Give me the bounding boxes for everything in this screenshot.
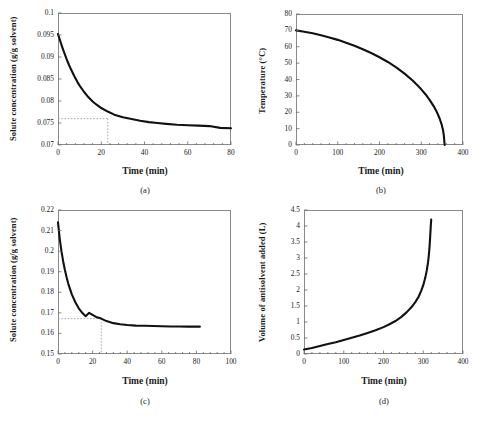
y-tick-label: 0.15 — [24, 350, 54, 357]
y-tick-label: 1 — [270, 318, 300, 325]
guide-lines-c — [58, 319, 101, 354]
y-tick-label: 2 — [270, 286, 300, 293]
x-tick-label: 60 — [174, 149, 202, 156]
y-tick-label: 0 — [262, 141, 292, 148]
y-tick-label: 0.085 — [24, 75, 54, 82]
y-tick-label: 0.075 — [24, 119, 54, 126]
y-tick-label: 2.5 — [270, 270, 300, 277]
x-tick-label: 0 — [44, 358, 72, 365]
y-tick-label: 20 — [262, 108, 292, 115]
x-tick-label: 0 — [282, 149, 310, 156]
x-axis-label-c: Time (min) — [85, 376, 205, 386]
x-tick-label: 100 — [324, 149, 352, 156]
x-tick-label: 300 — [409, 358, 437, 365]
x-tick-label: 80 — [217, 149, 245, 156]
x-axis-label-b: Time (min) — [321, 166, 441, 176]
x-tick-label: 200 — [370, 358, 398, 365]
subplot-c: Solute concentration (g/g solvent) 0.150… — [0, 200, 249, 426]
x-tick-label: 0 — [290, 358, 318, 365]
y-axis-label-d: Volume of antisolvent added (L) — [257, 212, 269, 352]
axis-ticks-c — [58, 210, 231, 354]
x-tick-label: 80 — [182, 358, 210, 365]
y-axis-label-c: Solute concentration (g/g solvent) — [8, 212, 20, 347]
x-tick-label: 60 — [148, 358, 176, 365]
y-tick-label: 0.19 — [24, 268, 54, 275]
y-tick-label: 4 — [270, 222, 300, 229]
x-tick-label: 0 — [44, 149, 72, 156]
subplot-caption-b: (b) — [351, 185, 411, 195]
subplot-a: Solute concentration (g/g solvent) 0.070… — [0, 0, 249, 200]
y-tick-label: 0.5 — [270, 334, 300, 341]
x-tick-label: 40 — [131, 149, 159, 156]
plot-canvas-a — [58, 13, 231, 145]
x-tick-label: 400 — [449, 358, 477, 365]
y-tick-label: 0.18 — [24, 288, 54, 295]
y-tick-label: 3.5 — [270, 238, 300, 245]
axis-ticks-b — [296, 14, 463, 145]
data-curve-a — [58, 34, 231, 128]
subplot-caption-c: (c) — [115, 396, 175, 406]
y-tick-label: 40 — [262, 76, 292, 83]
x-axis-label-d: Time (min) — [324, 376, 444, 386]
data-curve-c — [58, 222, 200, 326]
x-tick-label: 20 — [79, 358, 107, 365]
y-tick-label: 4.5 — [270, 206, 300, 213]
x-tick-label: 200 — [366, 149, 394, 156]
y-tick-label: 0.095 — [24, 31, 54, 38]
y-tick-label: 0.07 — [24, 141, 54, 148]
data-curve-d — [304, 220, 431, 350]
y-tick-label: 0.2 — [24, 247, 54, 254]
subplot-d: Volume of antisolvent added (L) 00.511.5… — [249, 200, 498, 426]
axis-ticks-d — [304, 210, 463, 354]
y-tick-label: 3 — [270, 254, 300, 261]
y-tick-label: 0.09 — [24, 53, 54, 60]
y-tick-label: 70 — [262, 26, 292, 33]
x-tick-label: 20 — [87, 149, 115, 156]
subplot-b: Temperature (°C) 01020304050607080 01002… — [249, 0, 498, 200]
y-tick-label: 30 — [262, 92, 292, 99]
x-tick-label: 300 — [407, 149, 435, 156]
y-tick-label: 0.1 — [24, 9, 54, 16]
y-tick-label: 0 — [270, 350, 300, 357]
x-tick-label: 100 — [330, 358, 358, 365]
subplot-caption-a: (a) — [115, 185, 175, 195]
plot-canvas-d — [304, 210, 463, 354]
y-tick-label: 50 — [262, 59, 292, 66]
y-axis-label-a: Solute concentration (g/g solvent) — [8, 14, 20, 144]
plot-canvas-c — [58, 210, 231, 354]
data-curve-b — [296, 30, 445, 145]
x-tick-label: 100 — [217, 358, 245, 365]
y-tick-label: 10 — [262, 125, 292, 132]
guide-lines-a — [58, 119, 108, 145]
y-tick-label: 1.5 — [270, 302, 300, 309]
y-tick-label: 80 — [262, 10, 292, 17]
subplot-caption-d: (d) — [354, 396, 414, 406]
y-tick-label: 0.21 — [24, 227, 54, 234]
x-tick-label: 40 — [113, 358, 141, 365]
y-tick-label: 0.17 — [24, 309, 54, 316]
x-tick-label: 400 — [449, 149, 477, 156]
y-tick-label: 0.08 — [24, 97, 54, 104]
y-tick-label: 0.16 — [24, 329, 54, 336]
y-tick-label: 0.22 — [24, 206, 54, 213]
x-axis-label-a: Time (min) — [85, 166, 205, 176]
y-tick-label: 60 — [262, 43, 292, 50]
plot-canvas-b — [296, 14, 463, 145]
